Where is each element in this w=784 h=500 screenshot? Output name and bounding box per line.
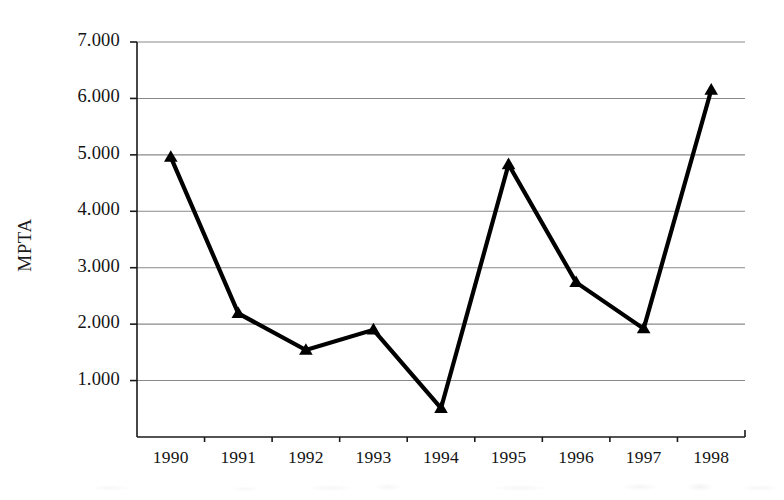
data-point-marker — [704, 83, 718, 95]
gridlines — [137, 42, 745, 381]
y-axis-ticks — [130, 42, 137, 381]
data-point-marker — [232, 306, 246, 318]
data-point-markers — [164, 83, 718, 413]
data-series-line — [171, 90, 711, 408]
data-point-marker — [164, 150, 178, 162]
data-point-marker — [502, 157, 516, 169]
line-chart-figure: MPTA 7.0006.0005.0004.0003.0002.0001.000… — [0, 0, 784, 500]
plot-area — [0, 0, 784, 500]
x-axis-ticks — [205, 430, 745, 442]
